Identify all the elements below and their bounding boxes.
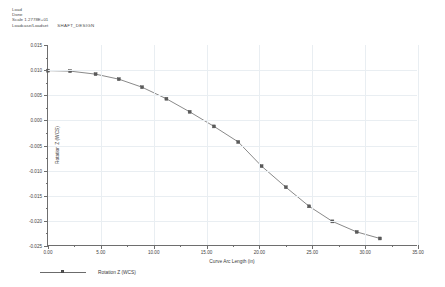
x-axis-tick-minor	[233, 245, 234, 247]
x-axis-tick	[259, 245, 260, 249]
y-axis-tick-label: 0.000	[31, 118, 43, 123]
data-point-marker[interactable]	[237, 140, 240, 143]
x-axis-tick-minor	[392, 245, 393, 247]
x-axis-tick-minor	[74, 245, 75, 247]
data-point-marker[interactable]	[355, 230, 358, 233]
gridline-horizontal	[48, 146, 417, 147]
y-axis-tick	[44, 45, 48, 46]
x-axis-tick-label: 30.00	[359, 250, 371, 255]
y-axis-tick-label: 0.005	[31, 93, 43, 98]
y-axis-tick-minor	[46, 158, 48, 159]
x-axis-tick-minor	[286, 245, 287, 247]
y-axis-tick-minor	[46, 58, 48, 59]
gridline-horizontal	[48, 95, 417, 96]
y-axis-tick-label: -0.010	[29, 168, 42, 173]
y-axis-tick	[44, 246, 48, 247]
y-axis-tick-minor	[46, 83, 48, 84]
y-axis-tick	[44, 196, 48, 197]
y-axis-tick-minor	[46, 208, 48, 209]
data-point-marker[interactable]	[308, 205, 311, 208]
data-point-marker[interactable]	[141, 86, 144, 89]
x-axis-tick-label: 15.00	[201, 250, 213, 255]
x-axis-tick	[48, 245, 49, 249]
y-axis-tick-minor	[46, 133, 48, 134]
legend-swatch-rotation-z	[40, 269, 86, 275]
x-axis-tick	[312, 245, 313, 249]
x-axis-tick	[365, 245, 366, 249]
y-axis-tick	[44, 146, 48, 147]
y-axis-tick-label: -0.025	[29, 244, 42, 249]
gridline-horizontal	[48, 70, 417, 71]
y-axis-tick-minor	[46, 108, 48, 109]
legend-marker-icon	[61, 270, 64, 273]
x-axis-tick-minor	[127, 245, 128, 247]
gridline-horizontal	[48, 196, 417, 197]
x-axis-tick	[101, 245, 102, 249]
x-axis-tick-minor	[339, 245, 340, 247]
y-axis-tick	[44, 95, 48, 96]
y-axis-tick	[44, 171, 48, 172]
x-axis-tick-minor	[180, 245, 181, 247]
legend-label-rotation-z: Rotation Z (WCS)	[98, 270, 136, 275]
x-axis-tick-label: 35.00	[412, 250, 424, 255]
x-axis-tick	[207, 245, 208, 249]
x-axis-tick	[418, 245, 419, 249]
data-point-marker[interactable]	[188, 110, 191, 113]
plot-area[interactable]: Rotation Z (WCS) 0.005.0010.0015.0020.00…	[47, 45, 417, 246]
data-point-marker[interactable]	[165, 97, 168, 100]
x-axis-tick-label: 20.00	[254, 250, 266, 255]
chart-legend: Rotation Z (WCS)	[40, 268, 136, 276]
y-axis-tick-label: -0.020	[29, 218, 42, 223]
data-point-marker[interactable]	[260, 165, 263, 168]
y-axis-tick-label: -0.015	[29, 193, 42, 198]
data-point-marker[interactable]	[378, 237, 381, 240]
data-point-marker[interactable]	[212, 125, 215, 128]
data-point-marker[interactable]	[94, 73, 97, 76]
y-axis-tick	[44, 120, 48, 121]
y-axis-tick-label: 0.010	[31, 68, 43, 73]
y-axis-tick	[44, 221, 48, 222]
y-axis-tick-minor	[46, 233, 48, 234]
x-axis-tick	[154, 245, 155, 249]
y-axis-tick	[44, 70, 48, 71]
gridline-horizontal	[48, 221, 417, 222]
x-axis-tick-label: 0.00	[44, 250, 53, 255]
x-axis-tick-label: 25.00	[307, 250, 319, 255]
x-axis-tick-label: 10.00	[148, 250, 160, 255]
x-axis-tick-label: 5.00	[96, 250, 105, 255]
data-point-marker[interactable]	[117, 78, 120, 81]
y-axis-tick-label: 0.015	[31, 43, 43, 48]
y-axis-tick-minor	[46, 183, 48, 184]
x-axis-title: Curve Arc Length (in)	[47, 259, 417, 264]
gridline-horizontal	[48, 171, 417, 172]
gridline-horizontal	[48, 120, 417, 121]
y-axis-tick-label: -0.005	[29, 143, 42, 148]
gridline-vertical	[418, 45, 419, 245]
data-point-marker[interactable]	[284, 186, 287, 189]
chart-container: Rotation Z (WCS) 0.005.0010.0015.0020.00…	[0, 0, 445, 287]
